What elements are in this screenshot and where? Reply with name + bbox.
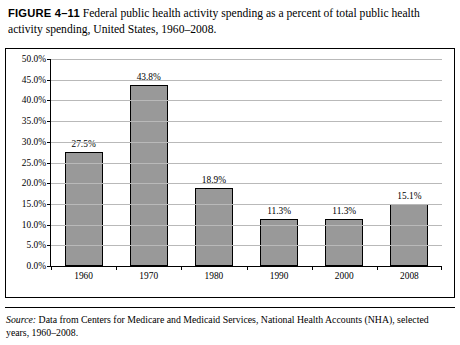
x-axis-tick-label: 1990: [270, 271, 289, 281]
x-axis-tickmark: [116, 266, 117, 270]
gridline: [51, 163, 442, 164]
y-axis-tickmark: [47, 266, 51, 267]
x-axis-tickmark: [312, 266, 313, 270]
plot-area: 27.5%196043.8%197018.9%198011.3%199011.3…: [50, 59, 442, 267]
gridline: [51, 59, 442, 60]
x-axis-tick-label: 2008: [400, 271, 419, 281]
y-axis-tick-label: 10.0%: [22, 220, 46, 230]
y-axis-tickmark: [47, 183, 51, 184]
bar: [390, 204, 428, 267]
y-axis-tickmark: [47, 100, 51, 101]
figure-page: FIGURE 4–11 Federal public health activi…: [0, 0, 460, 345]
gridline: [51, 204, 442, 205]
y-axis-tick-label: 25.0%: [22, 158, 46, 168]
bar-value-label: 11.3%: [332, 206, 356, 216]
source-note: Source: Data from Centers for Medicare a…: [6, 313, 454, 339]
y-axis-tickmark: [47, 80, 51, 81]
y-axis-tick-label: 35.0%: [22, 116, 46, 126]
x-axis-tickmark: [51, 266, 52, 270]
source-divider: [5, 307, 455, 308]
x-axis-tickmark: [181, 266, 182, 270]
x-axis-tick-label: 2000: [335, 271, 354, 281]
bar: [65, 152, 103, 266]
y-axis-tickmark: [47, 225, 51, 226]
y-axis-tickmark: [47, 121, 51, 122]
bar-value-label: 11.3%: [267, 206, 291, 216]
x-axis-tick-label: 1970: [139, 271, 158, 281]
source-label: Source:: [6, 314, 36, 325]
gridline: [51, 142, 442, 143]
y-axis-tickmark: [47, 204, 51, 205]
y-axis-tick-label: 30.0%: [22, 137, 46, 147]
y-axis-tick-label: 45.0%: [22, 75, 46, 85]
y-axis-tickmark: [47, 142, 51, 143]
figure-number: FIGURE 4–11: [8, 7, 80, 19]
y-axis-tick-label: 20.0%: [22, 178, 46, 188]
y-axis-tickmark: [47, 59, 51, 60]
x-axis-tick-label: 1960: [74, 271, 93, 281]
y-axis-tickmark: [47, 245, 51, 246]
gridline: [51, 225, 442, 226]
bar: [195, 188, 233, 266]
y-axis-tick-label: 40.0%: [22, 95, 46, 105]
gridline: [51, 121, 442, 122]
y-axis-tick-label: 5.0%: [26, 240, 46, 250]
x-axis-tickmark: [377, 266, 378, 270]
chart-frame: 27.5%196043.8%197018.9%198011.3%199011.3…: [5, 48, 455, 298]
source-text: Data from Centers for Medicare and Medic…: [6, 314, 429, 338]
bar: [260, 219, 298, 266]
y-axis-tickmark: [47, 163, 51, 164]
x-axis-tick-label: 1980: [205, 271, 224, 281]
gridline: [51, 80, 442, 81]
x-axis-tickmark: [441, 266, 442, 270]
y-axis-tick-label: 50.0%: [22, 54, 46, 64]
bar-value-label: 27.5%: [71, 139, 95, 149]
gridline: [51, 100, 442, 101]
bar-value-label: 15.1%: [397, 191, 421, 201]
figure-caption: FIGURE 4–11 Federal public health activi…: [8, 6, 452, 37]
y-axis-tick-label: 15.0%: [22, 199, 46, 209]
bar: [325, 219, 363, 266]
x-axis-tickmark: [247, 266, 248, 270]
gridline: [51, 183, 442, 184]
bar: [130, 85, 168, 266]
gridline: [51, 245, 442, 246]
y-axis-tick-label: 0.0%: [26, 261, 46, 271]
